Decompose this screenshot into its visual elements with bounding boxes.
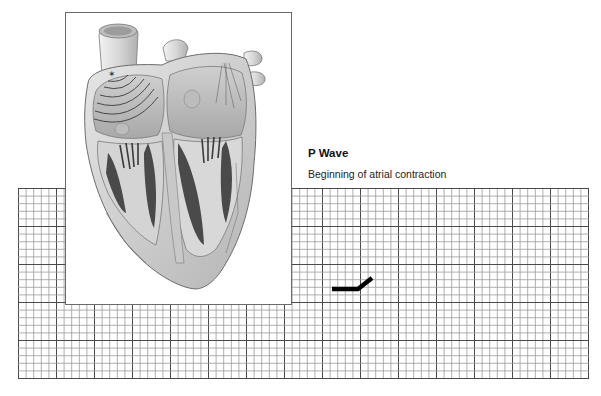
svg-text:✶: ✶ — [108, 69, 116, 79]
heart-illustration-frame: ✶ — [65, 12, 292, 305]
wave-label: P Wave Beginning of atrial contraction — [308, 146, 446, 181]
wave-title: P Wave — [308, 146, 446, 160]
heart-cross-section-illustration: ✶ — [66, 13, 291, 304]
wave-description: Beginning of atrial contraction — [308, 168, 446, 181]
